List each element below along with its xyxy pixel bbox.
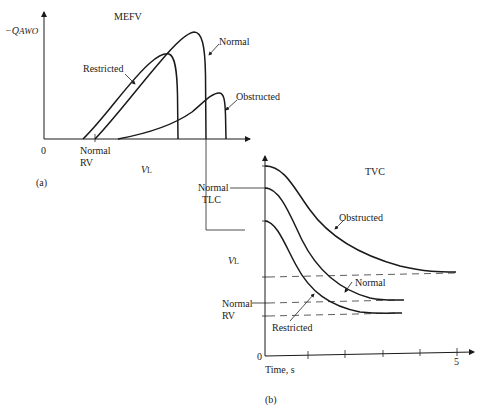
tvc-normal-label: Normal [355, 277, 386, 288]
panel-b-origin: 0 [257, 351, 262, 362]
y-label-sub-b: L [234, 257, 239, 266]
normal-pointer [209, 44, 219, 55]
normal-rv-label-a-2: RV [80, 157, 93, 168]
panel-a-y-label: −QAWO [5, 25, 38, 37]
mefv-obstructed-curve [118, 93, 226, 139]
y-label-sub: AWO [19, 26, 38, 36]
mefv-normal-curve [95, 32, 206, 139]
mefv-normal-label: Normal [219, 36, 250, 47]
panel-b-x-axis [265, 352, 474, 356]
figure-canvas [0, 0, 484, 417]
panel-a-label: (a) [36, 177, 47, 188]
normal-tlc-label-1: Normal [198, 182, 229, 193]
normal-rv-label-b-1: Normal [222, 298, 253, 309]
y-label-q: −Q [5, 25, 19, 36]
panel-b-label: (b) [265, 394, 277, 405]
normal-rv-label-a-1: Normal [80, 145, 111, 156]
time-5-label: 5 [454, 356, 459, 367]
tvc-obstructed-label: Obstructed [339, 212, 383, 223]
tvc-restricted-pointer [290, 294, 314, 321]
normal-rv-label-b-2: RV [222, 310, 235, 321]
normal-rv-dash [268, 300, 400, 303]
mefv-title: MEFV [114, 11, 142, 22]
panel-a-origin: 0 [41, 145, 46, 156]
tvc-title: TVC [365, 166, 385, 177]
panel-b-tvc [230, 156, 474, 359]
time-axis-label: Time, s [265, 364, 295, 375]
panel-a-x-label: VL [141, 164, 152, 176]
x-label-sub: L [147, 166, 152, 175]
panel-b-y-label: VL [228, 255, 239, 267]
tvc-restricted-label: Restricted [272, 322, 313, 333]
normal-tlc-label-2: TLC [202, 194, 221, 205]
mefv-restricted-label: Restricted [83, 63, 124, 74]
mefv-obstructed-label: Obstructed [236, 91, 280, 102]
